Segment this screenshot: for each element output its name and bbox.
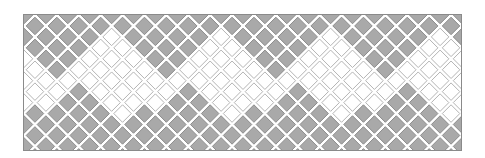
gray-diamond-tile (442, 127, 460, 145)
white-diamond-tile (201, 83, 219, 101)
gray-diamond-tile (420, 17, 438, 35)
white-diamond-tile (333, 105, 351, 123)
gray-diamond-tile (81, 28, 99, 46)
white-diamond-tile (431, 72, 449, 90)
gray-diamond-tile (212, 116, 230, 134)
gray-diamond-tile (26, 39, 44, 57)
white-diamond-tile (103, 72, 121, 90)
gray-diamond-tile (399, 39, 417, 57)
gray-diamond-tile (366, 50, 384, 68)
white-diamond-tile (125, 50, 143, 68)
gray-diamond-tile (300, 28, 318, 46)
gray-diamond-tile (431, 116, 449, 134)
white-diamond-tile (26, 83, 44, 101)
white-diamond-tile (114, 83, 132, 101)
gray-diamond-tile (267, 105, 285, 123)
gray-diamond-tile (169, 28, 187, 46)
white-diamond-tile (212, 50, 230, 68)
white-diamond-tile (212, 94, 230, 112)
gray-diamond-tile (311, 17, 329, 35)
gray-diamond-tile (147, 50, 165, 68)
white-diamond-tile (114, 105, 132, 123)
gray-diamond-tile (442, 17, 460, 35)
white-diamond-tile (114, 39, 132, 57)
gray-diamond-tile (37, 116, 55, 134)
white-diamond-tile (399, 61, 417, 79)
gray-diamond-tile (278, 50, 296, 68)
gray-diamond-tile (245, 105, 263, 123)
gray-diamond-tile (245, 17, 263, 35)
gray-diamond-tile (158, 39, 176, 57)
gray-diamond-tile (70, 39, 88, 57)
white-diamond-tile (201, 39, 219, 57)
gray-diamond-tile (234, 116, 252, 134)
gray-diamond-tile (234, 28, 252, 46)
diamond-tile-grid (24, 15, 462, 151)
white-diamond-tile (147, 72, 165, 90)
white-diamond-tile (92, 61, 110, 79)
gray-diamond-tile (366, 28, 384, 46)
white-diamond-tile (169, 72, 187, 90)
gray-diamond-tile (26, 127, 44, 145)
white-diamond-tile (431, 28, 449, 46)
gray-diamond-tile (311, 127, 329, 145)
white-diamond-tile (431, 94, 449, 112)
white-diamond-tile (311, 39, 329, 57)
gray-diamond-tile (26, 17, 44, 35)
gray-diamond-tile (355, 105, 373, 123)
white-diamond-tile (442, 105, 460, 123)
gray-diamond-tile (267, 17, 285, 35)
gray-diamond-tile (278, 28, 296, 46)
gray-diamond-tile (355, 39, 373, 57)
white-diamond-tile (223, 39, 241, 57)
white-diamond-tile (245, 83, 263, 101)
gray-diamond-tile (366, 116, 384, 134)
gray-diamond-tile (267, 39, 285, 57)
gray-diamond-tile (300, 94, 318, 112)
white-diamond-tile (223, 83, 241, 101)
white-diamond-tile (92, 83, 110, 101)
white-diamond-tile (333, 61, 351, 79)
gray-diamond-tile (388, 116, 406, 134)
gray-diamond-tile (48, 39, 66, 57)
gray-diamond-tile (59, 94, 77, 112)
gray-diamond-tile (245, 127, 263, 145)
gray-diamond-tile (48, 105, 66, 123)
gray-diamond-tile (158, 127, 176, 145)
white-diamond-tile (366, 72, 384, 90)
gray-diamond-tile (136, 39, 154, 57)
gray-diamond-tile (289, 127, 307, 145)
white-diamond-tile (355, 61, 373, 79)
gray-diamond-tile (169, 50, 187, 68)
gray-diamond-tile (169, 116, 187, 134)
gray-diamond-tile (103, 116, 121, 134)
white-diamond-tile (103, 94, 121, 112)
gray-diamond-tile (92, 17, 110, 35)
gray-diamond-tile (377, 127, 395, 145)
gray-diamond-tile (344, 28, 362, 46)
gray-diamond-tile (256, 50, 274, 68)
white-diamond-tile (37, 94, 55, 112)
gray-diamond-tile (289, 39, 307, 57)
white-diamond-tile (81, 72, 99, 90)
gray-diamond-tile (256, 28, 274, 46)
gray-diamond-tile (190, 94, 208, 112)
gray-diamond-tile (278, 116, 296, 134)
gray-diamond-tile (388, 94, 406, 112)
white-diamond-tile (311, 83, 329, 101)
gray-diamond-tile (37, 50, 55, 68)
diamond-pattern-frame (23, 14, 462, 151)
white-diamond-tile (223, 61, 241, 79)
white-diamond-tile (147, 94, 165, 112)
white-diamond-tile (333, 39, 351, 57)
white-diamond-tile (37, 72, 55, 90)
white-diamond-tile (333, 83, 351, 101)
gray-diamond-tile (59, 28, 77, 46)
gray-diamond-tile (70, 105, 88, 123)
white-diamond-tile (442, 39, 460, 57)
white-diamond-tile (70, 61, 88, 79)
gray-diamond-tile (201, 127, 219, 145)
gray-diamond-tile (311, 105, 329, 123)
gray-diamond-tile (37, 28, 55, 46)
white-diamond-tile (81, 50, 99, 68)
